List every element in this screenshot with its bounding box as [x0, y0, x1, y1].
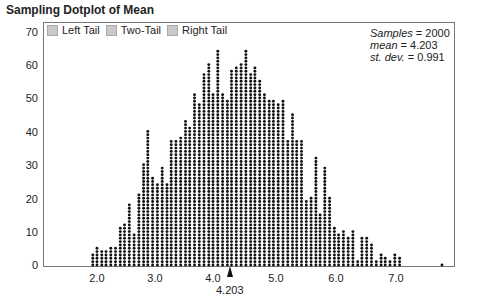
mean-stat: mean = 4.203 — [370, 39, 450, 51]
checkbox-icon[interactable] — [167, 25, 178, 36]
legend-label: Two-Tail — [121, 24, 161, 36]
samples-stat: Samples = 2000 — [370, 27, 450, 39]
legend-label: Right Tail — [182, 24, 227, 36]
sd-stat: st. dev. = 0.991 — [370, 51, 450, 63]
legend-label: Left Tail — [62, 24, 100, 36]
summary-stats: Samples = 2000 mean = 4.203 st. dev. = 0… — [370, 27, 450, 63]
left-tail-toggle[interactable]: Left Tail — [47, 24, 100, 36]
checkbox-icon[interactable] — [47, 25, 58, 36]
right-tail-toggle[interactable]: Right Tail — [167, 24, 227, 36]
two-tail-toggle[interactable]: Two-Tail — [106, 24, 161, 36]
tail-legend: Left Tail Two-Tail Right Tail — [47, 24, 227, 36]
checkbox-icon[interactable] — [106, 25, 117, 36]
mean-marker-label: 4.203 — [216, 284, 244, 296]
mean-marker-icon — [227, 266, 233, 277]
